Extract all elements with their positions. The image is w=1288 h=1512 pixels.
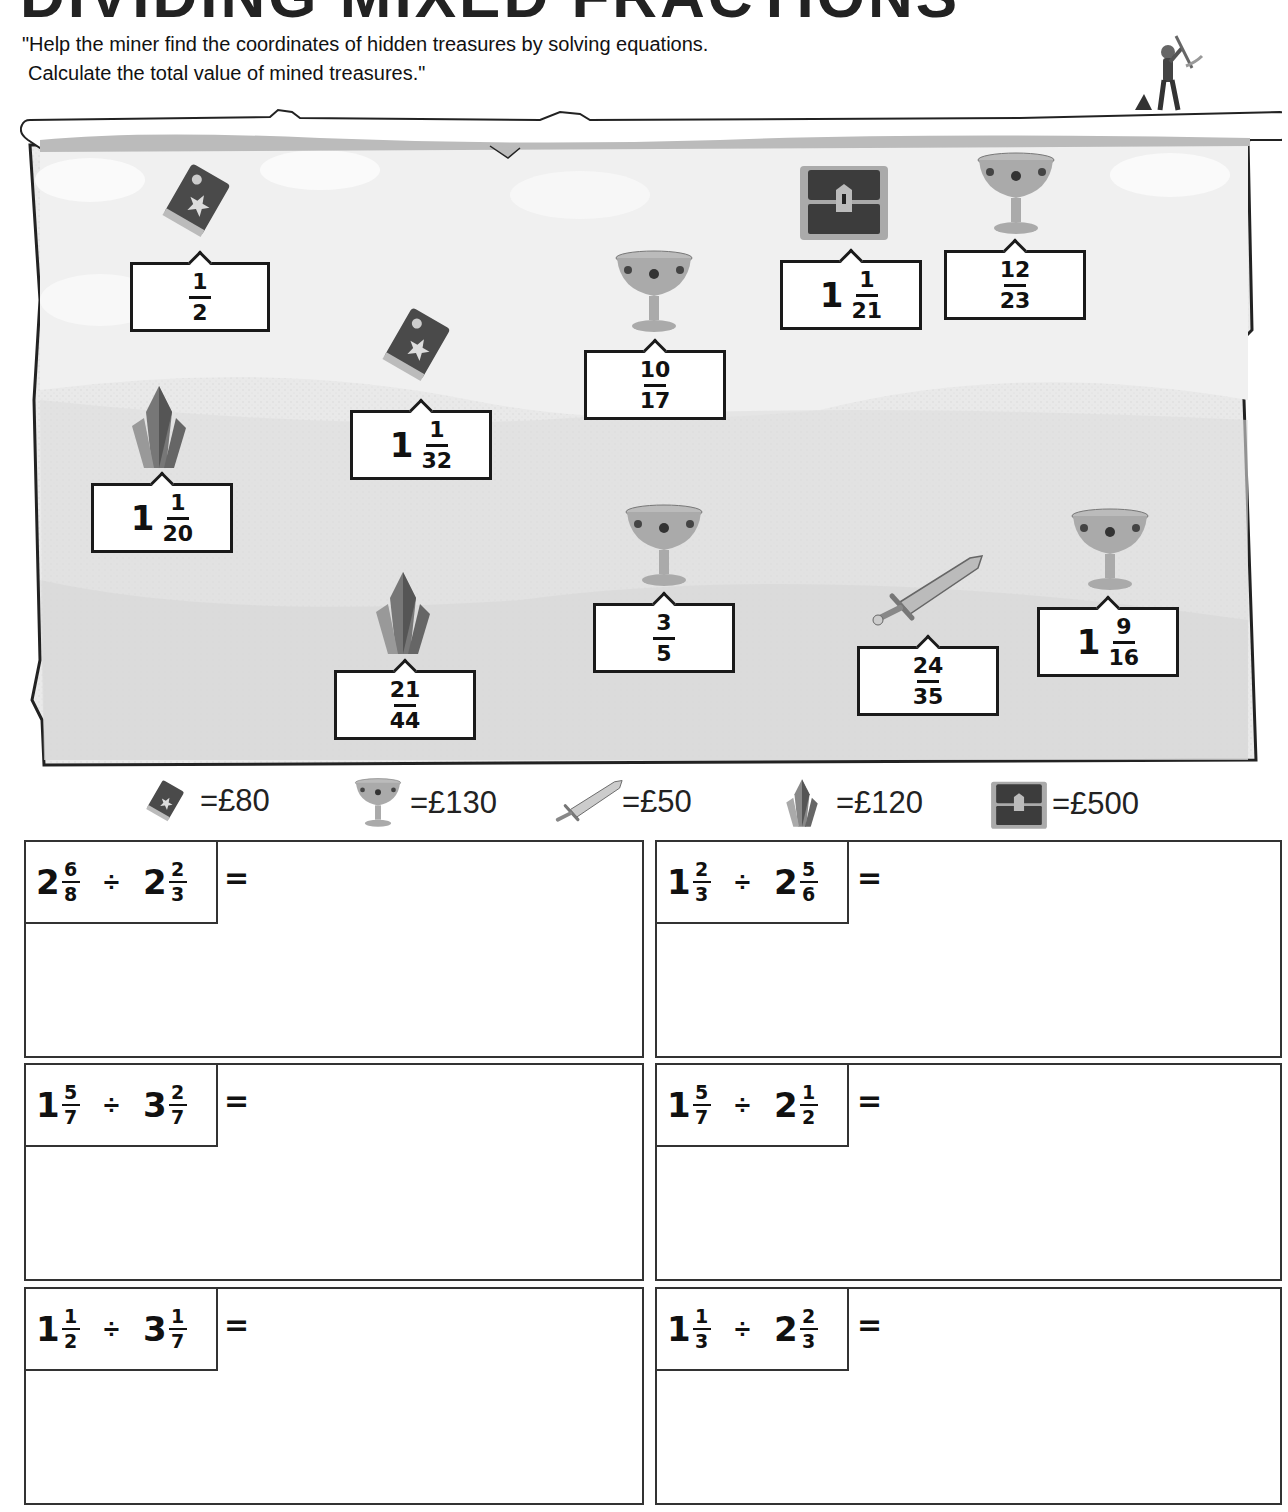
goblet-icon [976, 152, 1056, 236]
treasure-label: 12 [130, 262, 270, 332]
goblet-icon [624, 504, 704, 588]
legend-crystal: =£120 [780, 778, 923, 828]
treasure-label: 1 132 [350, 410, 492, 480]
treasure-label: 1223 [944, 250, 1086, 320]
goblet-icon [614, 250, 694, 334]
goblet-icon [1070, 508, 1150, 592]
equals-sign: = [224, 1083, 249, 1118]
treasure-label: 1 916 [1037, 607, 1179, 677]
chest-icon [796, 160, 892, 242]
crystal-icon [780, 778, 824, 828]
answer-area[interactable] [657, 924, 1280, 1056]
book-icon [380, 304, 452, 386]
problem-box-6: 113 ÷ 223 = [655, 1287, 1282, 1505]
sword-icon [550, 778, 626, 826]
instruction-line-1: "Help the miner find the coordinates of … [22, 30, 708, 59]
treasure-label: 2435 [857, 646, 999, 716]
legend-sword: =£50 [550, 778, 692, 826]
price-legend: =£80 =£130 =£50 =£120 =£500 [0, 778, 1288, 826]
equation: 113 ÷ 223 [657, 1289, 849, 1371]
legend-book: =£80 [134, 778, 270, 824]
instructions: "Help the miner find the coordinates of … [22, 30, 708, 88]
answer-area[interactable] [26, 1371, 642, 1503]
treasure-map: 12 1 132 1 120 1017 [20, 100, 1282, 770]
answer-area[interactable] [657, 1147, 1280, 1279]
book-icon [134, 778, 196, 824]
crystal-icon [124, 384, 194, 470]
goblet-icon [350, 778, 406, 828]
treasure-label: 1017 [584, 350, 726, 420]
treasure-label: 1 120 [91, 483, 233, 553]
worksheet-title: DIVIDING MIXED FRACTIONS [20, 0, 960, 31]
equation: 123 ÷ 256 [657, 842, 849, 924]
book-icon [160, 160, 232, 242]
treasure-label: 35 [593, 603, 735, 673]
equals-sign: = [857, 1083, 882, 1118]
divide-sign: ÷ [104, 866, 119, 898]
equals-sign: = [857, 860, 882, 895]
problem-box-3: 157 ÷ 327 = [24, 1063, 644, 1281]
legend-goblet: =£130 [350, 778, 497, 828]
sword-icon [870, 552, 986, 628]
equation: 157 ÷ 212 [657, 1065, 849, 1147]
divide-sign: ÷ [735, 866, 750, 898]
legend-chest: =£500 [986, 778, 1139, 830]
equals-sign: = [224, 1307, 249, 1342]
answer-area[interactable] [26, 924, 642, 1056]
equals-sign: = [224, 860, 249, 895]
answer-area[interactable] [657, 1371, 1280, 1503]
equals-sign: = [857, 1307, 882, 1342]
equation: 268 ÷ 223 [26, 842, 218, 924]
problem-box-2: 123 ÷ 256 = [655, 840, 1282, 1058]
divide-sign: ÷ [735, 1089, 750, 1121]
treasure-label: 1 121 [780, 260, 922, 330]
crystal-icon [368, 570, 438, 656]
divide-sign: ÷ [104, 1089, 119, 1121]
answer-area[interactable] [26, 1147, 642, 1279]
equation: 157 ÷ 327 [26, 1065, 218, 1147]
problem-box-1: 268 ÷ 223 = [24, 840, 644, 1058]
problem-box-4: 157 ÷ 212 = [655, 1063, 1282, 1281]
equation: 112 ÷ 317 [26, 1289, 218, 1371]
instruction-line-2: Calculate the total value of mined treas… [22, 59, 708, 88]
chest-icon [986, 778, 1052, 830]
treasure-label: 2144 [334, 670, 476, 740]
problem-box-5: 112 ÷ 317 = [24, 1287, 644, 1505]
divide-sign: ÷ [735, 1313, 750, 1345]
divide-sign: ÷ [104, 1313, 119, 1345]
